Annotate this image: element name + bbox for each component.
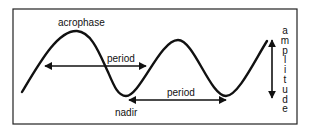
rhythm-wave (22, 31, 267, 96)
nadir-label: nadir (115, 107, 138, 118)
amplitude-letter: e (282, 103, 288, 114)
period-label-1: period (107, 53, 135, 64)
rhythm-diagram: acrophase period nadir period amplitude (0, 0, 312, 132)
period-label-2: period (167, 87, 195, 98)
acrophase-label: acrophase (58, 17, 105, 28)
amplitude-label: amplitude (281, 25, 289, 114)
